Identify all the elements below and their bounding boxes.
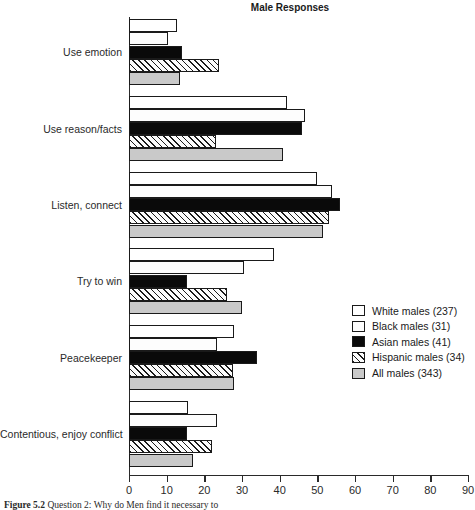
legend-swatch-icon xyxy=(352,336,365,347)
x-tick xyxy=(167,476,168,482)
caption-text: Question 2: Why do Men find it necessary… xyxy=(47,500,218,510)
bar xyxy=(129,185,332,198)
category-label: Try to win xyxy=(0,275,122,287)
x-tick xyxy=(242,476,243,482)
bar xyxy=(129,122,302,135)
chart-legend: White males (237)Black males (31)Asian m… xyxy=(352,303,465,381)
legend-label: Black males (31) xyxy=(372,321,450,332)
x-tick xyxy=(355,476,356,482)
legend-item: Hispanic males (34) xyxy=(352,350,465,366)
bar xyxy=(129,377,234,390)
x-tick-label: 10 xyxy=(155,484,179,496)
legend-item: All males (343) xyxy=(352,365,465,381)
category-label: Peacekeeper xyxy=(0,352,122,364)
bar xyxy=(129,454,193,467)
bar xyxy=(129,96,287,109)
category-label: Use emotion xyxy=(0,46,122,58)
bar xyxy=(129,427,187,440)
legend-swatch-icon xyxy=(352,368,365,379)
legend-item: Black males (31) xyxy=(352,319,465,335)
x-tick-label: 70 xyxy=(381,484,405,496)
x-tick-label: 90 xyxy=(456,484,475,496)
x-tick-label: 20 xyxy=(192,484,216,496)
bar xyxy=(129,414,217,427)
x-tick xyxy=(204,476,205,482)
x-tick xyxy=(393,476,394,482)
bar xyxy=(129,46,182,59)
bar xyxy=(129,288,227,301)
legend-swatch-icon xyxy=(352,305,365,316)
bar xyxy=(129,72,180,85)
bar xyxy=(129,351,257,364)
x-tick xyxy=(468,476,469,482)
legend-swatch-icon xyxy=(352,352,365,363)
bar xyxy=(129,325,234,338)
x-tick xyxy=(430,476,431,482)
legend-item: Asian males (41) xyxy=(352,334,465,350)
bar xyxy=(129,364,233,377)
x-tick-label: 50 xyxy=(305,484,329,496)
legend-label: All males (343) xyxy=(372,368,442,379)
figure-caption: Figure 5.2 Question 2: Why do Men find i… xyxy=(4,500,474,510)
bar xyxy=(129,172,317,185)
category-label: Contentious, enjoy conflict xyxy=(0,428,122,440)
x-tick-label: 30 xyxy=(230,484,254,496)
bar xyxy=(129,401,188,414)
bar xyxy=(129,248,274,261)
bar xyxy=(129,225,323,238)
x-tick-label: 60 xyxy=(343,484,367,496)
bar xyxy=(129,261,244,274)
bar xyxy=(129,211,329,224)
x-tick xyxy=(280,476,281,482)
legend-label: White males (237) xyxy=(372,306,457,317)
bar xyxy=(129,59,219,72)
bar xyxy=(129,148,283,161)
bar xyxy=(129,135,216,148)
legend-swatch-icon xyxy=(352,321,365,332)
x-tick xyxy=(129,476,130,482)
x-axis-line xyxy=(129,475,469,476)
caption-label: Figure 5.2 xyxy=(4,500,45,510)
legend-label: Hispanic males (34) xyxy=(372,352,465,363)
bar xyxy=(129,19,177,32)
bar xyxy=(129,109,305,122)
x-tick-label: 80 xyxy=(418,484,442,496)
bar xyxy=(129,32,168,45)
legend-item: White males (237) xyxy=(352,303,465,319)
category-label: Use reason/facts xyxy=(0,123,122,135)
bar xyxy=(129,440,212,453)
chart-title: Male Responses xyxy=(190,2,390,13)
bar xyxy=(129,275,187,288)
x-tick-label: 40 xyxy=(268,484,292,496)
bar xyxy=(129,198,340,211)
bar xyxy=(129,338,217,351)
x-tick xyxy=(317,476,318,482)
bar xyxy=(129,301,242,314)
x-tick-label: 0 xyxy=(117,484,141,496)
category-label: Listen, connect xyxy=(0,199,122,211)
legend-label: Asian males (41) xyxy=(372,337,451,348)
